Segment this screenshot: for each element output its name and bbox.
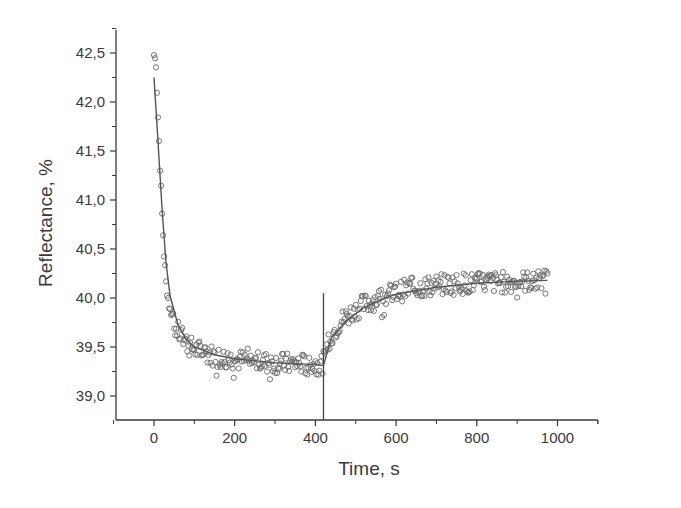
y-tick-label: 41,5 xyxy=(76,142,105,159)
x-tick-label: 200 xyxy=(222,429,247,446)
reflectance-chart: 0200400600800100039,039,540,040,541,041,… xyxy=(0,0,681,508)
x-tick-label: 1000 xyxy=(541,429,574,446)
x-tick-label: 600 xyxy=(384,429,409,446)
y-tick-label: 39,0 xyxy=(76,387,105,404)
y-tick-label: 42,5 xyxy=(76,44,105,61)
x-tick-label: 0 xyxy=(150,429,158,446)
y-tick-label: 40,0 xyxy=(76,289,105,306)
y-tick-label: 42,0 xyxy=(76,93,105,110)
y-tick-label: 39,5 xyxy=(76,338,105,355)
x-axis-title: Time, s xyxy=(338,458,400,479)
y-axis-title: Reflectance, % xyxy=(35,159,56,287)
data-points xyxy=(151,53,550,382)
y-tick-label: 40,5 xyxy=(76,240,105,257)
x-tick-label: 800 xyxy=(464,429,489,446)
x-tick-label: 400 xyxy=(303,429,328,446)
axes: 0200400600800100039,039,540,040,541,041,… xyxy=(76,29,598,447)
y-tick-label: 41,0 xyxy=(76,191,105,208)
